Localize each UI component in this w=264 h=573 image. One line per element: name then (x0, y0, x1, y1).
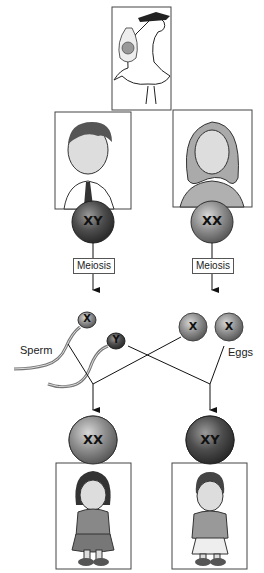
father-chromosome-label: XY (73, 213, 113, 228)
meiosis-label-left: Meiosis (73, 258, 115, 274)
mother-chromosome-label: XX (192, 213, 232, 228)
meiosis-label-right: Meiosis (192, 258, 234, 274)
egg-x-1-label: X (186, 320, 200, 333)
sperm-label: Sperm (20, 344, 52, 356)
egg-x-2-label: X (222, 320, 236, 333)
sperm-x-label: X (80, 313, 94, 324)
boy-illustration-icon (192, 472, 228, 566)
girl-chromosome-label: XX (73, 432, 113, 447)
sperm-y-label: Y (109, 334, 123, 345)
fertilization-lines (68, 337, 224, 410)
diagram-canvas (0, 0, 264, 573)
eggs-label: Eggs (228, 346, 253, 358)
boy-chromosome-label: XY (190, 432, 230, 447)
